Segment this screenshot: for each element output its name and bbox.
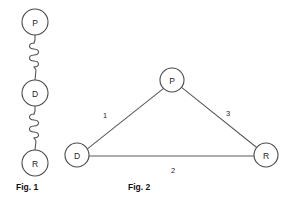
- fig2-node-p-label: P: [169, 76, 175, 86]
- spring-lead-top-pd: [34, 35, 35, 43]
- figure-2-group: 1 2 3 P D R Fig. 2: [65, 68, 278, 192]
- fig2-edge-weight-p-r: 3: [226, 109, 230, 118]
- fig2-node-p[interactable]: P: [160, 68, 184, 92]
- spring-connector-d-r: [30, 106, 39, 150]
- fig2-caption: Fig. 2: [128, 182, 150, 192]
- fig2-edge-weight-d-p: 1: [103, 111, 107, 120]
- fig1-node-r-label: R: [32, 159, 38, 169]
- fig2-edge-p-r[interactable]: [182, 88, 257, 148]
- spring-coils-d-r: [30, 114, 39, 138]
- fig1-node-p-label: P: [32, 18, 38, 28]
- fig2-node-r[interactable]: R: [254, 143, 278, 167]
- fig2-node-d[interactable]: D: [65, 143, 89, 167]
- figure-1-group: P D R Fig. 1: [16, 9, 48, 192]
- fig2-node-d-label: D: [74, 151, 80, 161]
- fig2-edge-d-p[interactable]: [87, 88, 163, 149]
- fig1-node-p[interactable]: P: [22, 9, 48, 35]
- fig2-edge-weight-d-r: 2: [171, 166, 175, 175]
- fig1-node-r[interactable]: R: [22, 150, 48, 176]
- fig1-node-d-label: D: [32, 89, 38, 99]
- spring-lead-top-dr: [34, 106, 35, 114]
- spring-lead-bottom-pd: [34, 67, 36, 80]
- figure-canvas: P D R Fig. 1 1 2 3 P: [0, 0, 289, 202]
- spring-coils-p-d: [30, 43, 39, 67]
- fig2-node-r-label: R: [263, 151, 269, 161]
- fig1-caption: Fig. 1: [16, 182, 38, 192]
- spring-connector-p-d: [30, 35, 39, 80]
- spring-lead-bottom-dr: [34, 138, 36, 150]
- fig1-node-d[interactable]: D: [22, 80, 48, 106]
